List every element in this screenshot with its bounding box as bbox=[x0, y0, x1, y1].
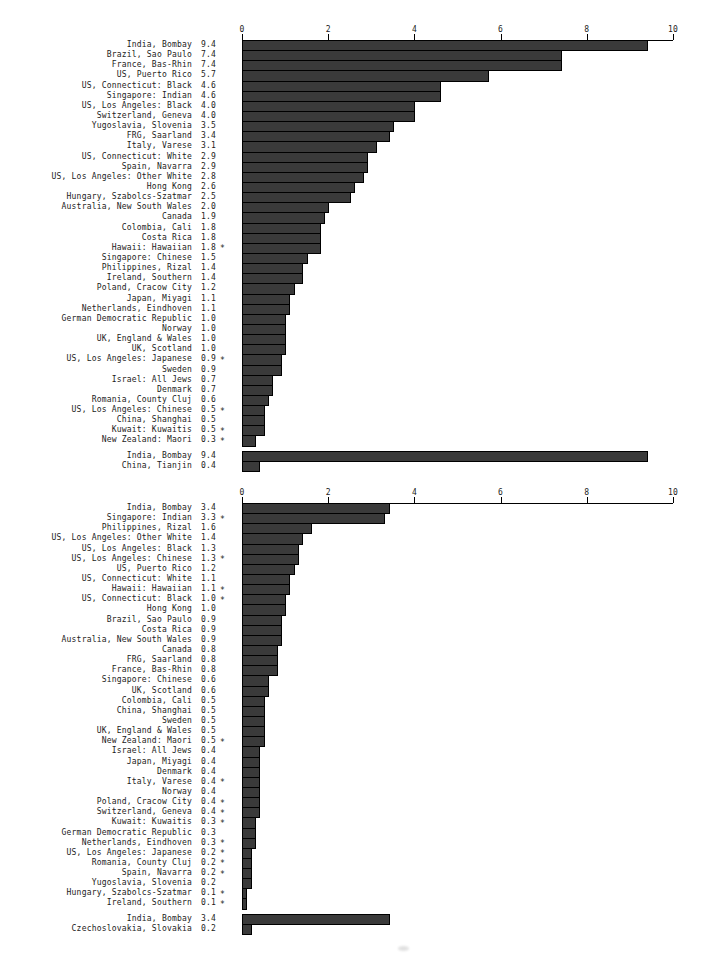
axis-tick-label: 2 bbox=[326, 25, 331, 34]
chart-row: Denmark0.7 bbox=[0, 385, 714, 395]
bar-area bbox=[242, 675, 673, 685]
row-label: Singapore: Indian bbox=[0, 91, 192, 101]
row-label: Hungary, Szabolcs-Szatmar bbox=[0, 888, 192, 898]
bar-area bbox=[242, 584, 673, 594]
row-value: 0.2 bbox=[192, 858, 216, 868]
row-value: 3.4 bbox=[192, 131, 216, 141]
row-label: Hong Kong bbox=[0, 604, 192, 614]
bar-area bbox=[242, 736, 673, 746]
bar-area bbox=[242, 365, 673, 375]
bar-area bbox=[242, 451, 673, 461]
row-label: Sweden bbox=[0, 716, 192, 726]
bar-area bbox=[242, 375, 673, 385]
row-label: India, Bombay bbox=[0, 914, 192, 924]
row-label: US, Los Angeles: Black bbox=[0, 544, 192, 554]
bar-area bbox=[242, 314, 673, 324]
chart-row: Hawaii: Hawaiian1.8* bbox=[0, 243, 714, 253]
bar bbox=[242, 435, 256, 446]
row-value: 0.3 bbox=[192, 838, 216, 848]
chart-row: Switzerland, Geneva0.4* bbox=[0, 807, 714, 817]
axis-tick-label: 4 bbox=[412, 488, 417, 497]
row-label: Israel: All Jews bbox=[0, 375, 192, 385]
row-label: Norway bbox=[0, 324, 192, 334]
bottom-bar-chart: 0246810 India, Bombay3.4Singapore: India… bbox=[0, 503, 714, 934]
chart-row: China, Tianjin0.4 bbox=[0, 461, 714, 471]
top-bar-chart: 0246810 India, Bombay9.4Brazil, Sao Paul… bbox=[0, 40, 714, 471]
x-axis: 0246810 bbox=[242, 488, 673, 503]
row-value: 0.4 bbox=[192, 807, 216, 817]
row-value: 0.4 bbox=[192, 777, 216, 787]
chart-row: Brazil, Sao Paulo7.4 bbox=[0, 50, 714, 60]
chart-row: FRG, Saarland0.8 bbox=[0, 655, 714, 665]
axis-tick-label: 8 bbox=[584, 25, 589, 34]
bar-area bbox=[242, 797, 673, 807]
row-value: 0.9 bbox=[192, 625, 216, 635]
row-value: 1.8 bbox=[192, 243, 216, 253]
row-value: 9.4 bbox=[192, 451, 216, 461]
bar-area bbox=[242, 344, 673, 354]
row-value: 0.8 bbox=[192, 655, 216, 665]
row-label: US, Connecticut: Black bbox=[0, 81, 192, 91]
row-label: Switzerland, Geneva bbox=[0, 807, 192, 817]
bar-area bbox=[242, 182, 673, 192]
bar-area bbox=[242, 787, 673, 797]
axis-tick bbox=[673, 34, 674, 40]
row-value: 4.0 bbox=[192, 101, 216, 111]
chart-row: Ireland, Southern1.4 bbox=[0, 273, 714, 283]
row-label: US, Los Angeles: Japanese bbox=[0, 354, 192, 364]
row-label: Switzerland, Geneva bbox=[0, 111, 192, 121]
bar-area bbox=[242, 405, 673, 415]
row-label: Spain, Navarra bbox=[0, 162, 192, 172]
chart-row: UK, Scotland1.0 bbox=[0, 344, 714, 354]
x-axis-line bbox=[242, 503, 673, 504]
row-value: 1.9 bbox=[192, 212, 216, 222]
bar-area bbox=[242, 564, 673, 574]
row-label: Sweden bbox=[0, 365, 192, 375]
axis-tick-label: 4 bbox=[412, 25, 417, 34]
significance-asterisk: * bbox=[216, 357, 242, 365]
bar-area bbox=[242, 533, 673, 543]
row-value: 0.5 bbox=[192, 696, 216, 706]
bar-area bbox=[242, 354, 673, 364]
row-value: 1.4 bbox=[192, 263, 216, 273]
axis-tick-label: 0 bbox=[239, 488, 244, 497]
chart-row: US, Los Angeles: Black4.0 bbox=[0, 101, 714, 111]
chart-row: US, Los Angeles: Japanese0.9* bbox=[0, 354, 714, 364]
row-value: 1.6 bbox=[192, 523, 216, 533]
row-value: 1.0 bbox=[192, 594, 216, 604]
bar-area bbox=[242, 192, 673, 202]
row-value: 0.4 bbox=[192, 787, 216, 797]
bar-area bbox=[242, 914, 673, 924]
row-value: 0.9 bbox=[192, 615, 216, 625]
bar-area bbox=[242, 152, 673, 162]
row-value: 0.5 bbox=[192, 726, 216, 736]
row-label: US, Los Angeles: Chinese bbox=[0, 554, 192, 564]
row-value: 1.0 bbox=[192, 604, 216, 614]
row-label: China, Tianjin bbox=[0, 461, 192, 471]
chart-row: German Democratic Republic0.3 bbox=[0, 828, 714, 838]
chart-row: Israel: All Jews0.7 bbox=[0, 375, 714, 385]
chart-row: Switzerland, Geneva4.0 bbox=[0, 111, 714, 121]
chart-row: Poland, Cracow City1.2 bbox=[0, 283, 714, 293]
chart-row: Brazil, Sao Paulo0.9 bbox=[0, 615, 714, 625]
chart-row: UK, England & Wales1.0 bbox=[0, 334, 714, 344]
row-label: UK, England & Wales bbox=[0, 334, 192, 344]
row-value: 1.2 bbox=[192, 283, 216, 293]
chart-row: Australia, New South Wales0.9 bbox=[0, 635, 714, 645]
chart-row: Philippines, Rizal1.6 bbox=[0, 523, 714, 533]
significance-asterisk: * bbox=[216, 739, 242, 747]
row-value: 3.4 bbox=[192, 503, 216, 513]
chart-row: France, Bas-Rhin0.8 bbox=[0, 665, 714, 675]
row-label: Netherlands, Eindhoven bbox=[0, 304, 192, 314]
row-value: 0.4 bbox=[192, 746, 216, 756]
row-value: 1.0 bbox=[192, 334, 216, 344]
chart-row: US, Puerto Rico1.2 bbox=[0, 564, 714, 574]
chart-row: India, Bombay3.4 bbox=[0, 914, 714, 924]
row-label: FRG, Saarland bbox=[0, 655, 192, 665]
bar-area bbox=[242, 435, 673, 445]
chart-row: Sweden0.9 bbox=[0, 365, 714, 375]
chart-row: German Democratic Republic1.0 bbox=[0, 314, 714, 324]
chart-row: Norway0.4 bbox=[0, 787, 714, 797]
row-value: 1.1 bbox=[192, 304, 216, 314]
chart-row: Italy, Varese0.4* bbox=[0, 777, 714, 787]
